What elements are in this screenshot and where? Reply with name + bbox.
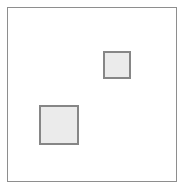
outer-frame [7, 7, 177, 182]
diagram-caption [0, 0, 1, 1]
square-large[interactable] [39, 105, 79, 145]
diagram-canvas [0, 0, 184, 191]
square-small[interactable] [103, 51, 131, 79]
square-small-label [105, 53, 106, 54]
square-large-label [41, 107, 42, 108]
